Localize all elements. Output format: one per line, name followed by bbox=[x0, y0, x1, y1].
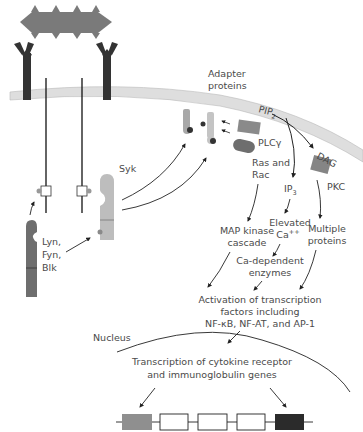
itam-right bbox=[77, 186, 87, 196]
arrow-ras-to-map bbox=[248, 184, 258, 221]
label-pkc: PKC bbox=[327, 181, 345, 192]
label-elevated: Elevated bbox=[269, 217, 311, 228]
adapter-proteins bbox=[183, 109, 216, 144]
label-activation-3: NF-κB, NF-AT, and AP-1 bbox=[205, 318, 315, 329]
arrow-lyn-to-syk bbox=[66, 238, 90, 252]
exon-1 bbox=[122, 414, 152, 430]
label-ca: Ca++ bbox=[276, 228, 299, 240]
lyn-kinase bbox=[26, 220, 37, 297]
label-fyn: Fyn, bbox=[42, 249, 61, 260]
plc-gamma bbox=[237, 120, 260, 135]
arrow-to-left-exon bbox=[140, 388, 155, 407]
exon-5 bbox=[275, 414, 304, 430]
label-activation-2: factors including bbox=[220, 306, 299, 317]
arrow-activation-to-transcription bbox=[228, 331, 240, 343]
label-transcription-2: and immunoglobulin genes bbox=[147, 369, 276, 380]
label-map-1: MAP kinase bbox=[220, 225, 274, 236]
label-blk: Blk bbox=[42, 262, 57, 273]
label-pip2: PIP2 bbox=[257, 103, 278, 121]
arrow-to-right-exon bbox=[270, 388, 286, 407]
arrow-map-to-activation bbox=[208, 252, 230, 287]
label-adapter-2: proteins bbox=[208, 80, 247, 91]
arrow-lyn-to-itam bbox=[30, 202, 34, 215]
exon-3 bbox=[198, 414, 227, 430]
label-ca-dependent: Ca-dependent bbox=[236, 255, 304, 266]
arrow-ip3-to-ca bbox=[285, 199, 290, 213]
label-ras-1: Ras and bbox=[252, 157, 290, 168]
label-adapter-1: Adapter bbox=[208, 68, 246, 79]
exon-4 bbox=[237, 414, 265, 430]
label-proteins: proteins bbox=[308, 235, 347, 246]
label-plc: PLCγ bbox=[258, 137, 282, 148]
arrow-enzymes-to-activation bbox=[254, 281, 262, 290]
ras-rac bbox=[232, 138, 256, 154]
label-ras-2: Rac bbox=[252, 169, 269, 180]
label-map-2: cascade bbox=[228, 237, 267, 248]
gene-locus bbox=[116, 414, 313, 430]
label-enzymes: enzymes bbox=[249, 267, 292, 278]
label-activation-1: Activation of transcription bbox=[198, 294, 321, 305]
exon-2 bbox=[160, 414, 188, 430]
label-syk: Syk bbox=[119, 163, 137, 174]
label-transcription-1: Transcription of cytokine receptor bbox=[131, 356, 292, 367]
label-ip3: IP3 bbox=[284, 183, 297, 197]
label-lyn: Lyn, bbox=[42, 236, 61, 247]
signaling-diagram: Lyn, Fyn, Blk Syk Adapter proteins PIP2 … bbox=[0, 0, 363, 432]
label-nucleus: Nucleus bbox=[93, 332, 131, 343]
syk-kinase bbox=[98, 174, 115, 240]
itam-left bbox=[41, 186, 51, 196]
antigen bbox=[20, 5, 112, 39]
arrow-pkc-to-multiple bbox=[317, 180, 321, 218]
label-multiple: Multiple bbox=[308, 223, 346, 234]
